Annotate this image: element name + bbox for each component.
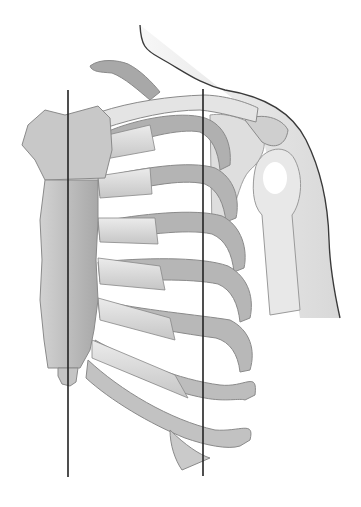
sternum-body: [40, 180, 98, 368]
coracoid-process: [90, 61, 160, 101]
humerus: [253, 149, 300, 315]
thoracic-cage-illustration: [0, 0, 361, 507]
manubrium: [22, 106, 112, 180]
